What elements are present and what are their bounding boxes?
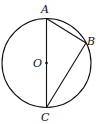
- geometry-diagram: A B C O: [0, 0, 98, 124]
- label-o: O: [33, 57, 42, 70]
- label-a: A: [40, 3, 49, 16]
- segment-bc: [47, 43, 87, 108]
- label-c: C: [41, 111, 50, 124]
- segment-ab: [47, 19, 87, 44]
- label-b: B: [86, 35, 95, 48]
- center-point-o: [45, 62, 48, 65]
